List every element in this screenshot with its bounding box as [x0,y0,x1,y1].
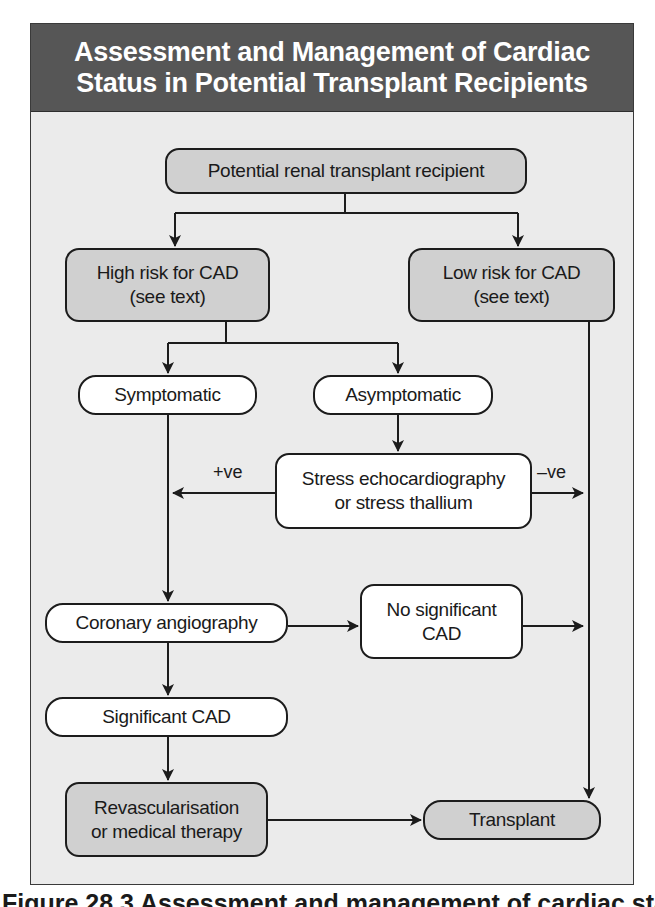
node-label: Revascularisation [94,796,239,820]
node-significant-cad: Significant CAD [45,697,288,737]
node-label: Symptomatic [114,383,221,407]
node-label: Coronary angiography [75,611,257,635]
node-potential-recipient: Potential renal transplant recipient [165,148,527,194]
node-label: High risk for CAD [97,261,239,285]
node-coronary-angiography: Coronary angiography [45,603,288,643]
node-label: Potential renal transplant recipient [208,159,484,183]
node-sublabel: (see text) [129,285,205,309]
node-low-risk: Low risk for CAD (see text) [408,248,615,322]
edge-label-negative: –ve [537,462,566,483]
node-sublabel: (see text) [473,285,549,309]
node-high-risk: High risk for CAD (see text) [65,248,270,322]
edge-label-positive: +ve [213,462,243,483]
node-sublabel: or stress thallium [334,491,472,515]
node-transplant: Transplant [423,800,601,840]
node-label: No significant [387,598,497,622]
figure-caption: Figure 28.3 Assessment and management of… [0,888,655,907]
node-stress-test: Stress echocardiography or stress thalli… [275,453,532,529]
node-label: Low risk for CAD [443,261,581,285]
node-label: Stress echocardiography [302,467,505,491]
node-no-significant-cad: No significant CAD [360,584,523,659]
node-asymptomatic: Asymptomatic [313,375,493,415]
node-symptomatic: Symptomatic [78,375,257,415]
node-sublabel: CAD [422,622,461,646]
node-label: Significant CAD [102,705,231,729]
node-sublabel: or medical therapy [91,820,242,844]
node-label: Asymptomatic [345,383,461,407]
node-revascularisation: Revascularisation or medical therapy [65,782,268,857]
node-label: Transplant [469,808,555,832]
